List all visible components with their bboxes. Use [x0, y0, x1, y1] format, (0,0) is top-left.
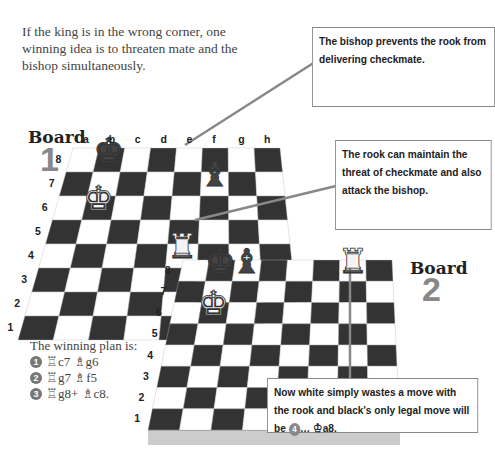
winning-plan: The winning plan is: 1♖c7 ♗g6 2♖g7 ♗f5 3…: [30, 338, 137, 402]
waste-move: … ♔a8.: [300, 422, 337, 434]
move-text: ♖g7 ♗f5: [46, 370, 97, 385]
callout-rook: The rook can maintain the threat of chec…: [335, 140, 492, 230]
plan-move-3: 3♖g8+ ♗c8.: [30, 386, 137, 402]
white-rook-icon: ♜: [167, 226, 197, 266]
white-king-icon: ♚: [83, 178, 113, 218]
move-text: ♖c7 ♗g6: [46, 354, 99, 369]
move-badge: 2: [30, 372, 42, 384]
callout-waste: Now white simply wastes a move with the …: [267, 378, 478, 433]
plan-move-1: 1♖c7 ♗g6: [30, 354, 137, 370]
arrow-bishop: [185, 62, 315, 145]
callout-bishop: The bishop prevents the rook from delive…: [312, 27, 495, 107]
move-badge: 3: [30, 388, 42, 400]
move-text: ♖g8+ ♗c8.: [46, 386, 109, 401]
white-king-icon: ♚: [198, 283, 228, 323]
move-badge: 1: [30, 356, 42, 368]
move-number-badge: 4: [289, 423, 300, 436]
plan-title: The winning plan is:: [30, 338, 137, 354]
black-bishop-icon: ♝: [231, 241, 261, 281]
plan-move-2: 2♖g7 ♗f5: [30, 370, 137, 386]
board-2-number: 2: [422, 270, 441, 309]
black-bishop-icon: ♝: [199, 154, 229, 194]
white-rook-icon: ♜: [338, 241, 368, 281]
